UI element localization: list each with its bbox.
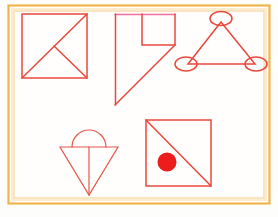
- outer-border-frame: [9, 6, 270, 204]
- drawing-canvas: Hand-drawn geometric shapes composition …: [0, 0, 278, 217]
- filled-circle-dot: [158, 153, 177, 172]
- shapes-illustration: [0, 0, 278, 217]
- frame-outer-line: [9, 6, 270, 204]
